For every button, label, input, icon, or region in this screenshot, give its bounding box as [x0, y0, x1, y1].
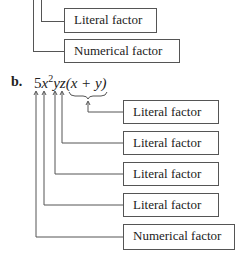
literal-factor-box: Literal factor	[123, 100, 219, 124]
literal-factor-box: Literal factor	[123, 162, 219, 186]
literal-factor-box: Literal factor	[123, 193, 219, 217]
connector-lines	[0, 0, 248, 260]
numerical-factor-box: Numerical factor	[123, 224, 235, 250]
literal-factor-box: Literal factor	[123, 131, 219, 155]
